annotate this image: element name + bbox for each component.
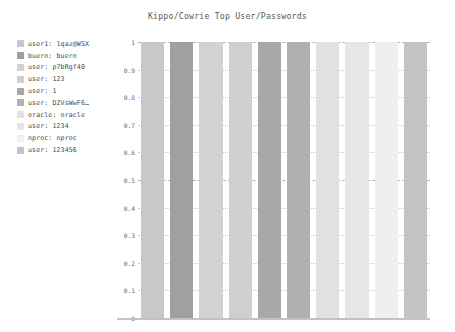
legend-item[interactable]: user: 123 <box>17 73 117 85</box>
legend-item-label: buero: buero <box>28 52 77 60</box>
legend-swatch-icon <box>17 135 24 142</box>
y-axis-tick-labels: 10.90.80.70.60.50.40.30.20.10 <box>110 42 135 318</box>
legend-item-label: user: 1 <box>28 87 57 95</box>
bar[interactable] <box>199 42 222 318</box>
y-axis-tick-label: 0.1 <box>124 287 135 294</box>
legend-item-label: user: 1234 <box>28 122 69 130</box>
legend-swatch-icon <box>17 123 24 130</box>
legend-item-label: user: 123 <box>28 75 65 83</box>
legend-item-label: nproc: nproc <box>28 134 77 142</box>
chart-legend: user1: 1qaz@WSXbuero: buerouser: p7bRgf4… <box>17 38 117 156</box>
bar[interactable] <box>316 42 339 318</box>
legend-item[interactable]: user: 123456 <box>17 144 117 156</box>
legend-item-label: user1: 1qaz@WSX <box>28 40 89 48</box>
y-axis-tick-label: 1 <box>131 39 135 46</box>
legend-item[interactable]: nproc: nproc <box>17 132 117 144</box>
legend-item[interactable]: user1: 1qaz@WSX <box>17 38 117 50</box>
legend-item[interactable]: user: DZVsWwF6… <box>17 97 117 109</box>
legend-swatch-icon <box>17 88 24 95</box>
legend-swatch-icon <box>17 40 24 47</box>
y-axis-tick-label: 0.2 <box>124 259 135 266</box>
legend-swatch-icon <box>17 52 24 59</box>
legend-item[interactable]: user: 1234 <box>17 121 117 133</box>
bar[interactable] <box>229 42 252 318</box>
chart-figure: Kippo/Cowrie Top User/Passwords user1: 1… <box>0 0 455 332</box>
y-axis-tick-label: 0.5 <box>124 177 135 184</box>
legend-item-label: user: DZVsWwF6… <box>28 99 89 107</box>
legend-item[interactable]: oracle: oracle <box>17 109 117 121</box>
legend-item-label: user: 123456 <box>28 146 77 154</box>
bar[interactable] <box>258 42 281 318</box>
legend-item[interactable]: buero: buero <box>17 50 117 62</box>
legend-swatch-icon <box>17 99 24 106</box>
bar-series <box>138 42 430 318</box>
legend-item-label: user: p7bRgf40 <box>28 63 85 71</box>
legend-item[interactable]: user: p7bRgf40 <box>17 62 117 74</box>
x-axis-baseline <box>117 318 430 320</box>
y-axis-tick-label: 0.9 <box>124 66 135 73</box>
y-axis-tick-label: 0.6 <box>124 149 135 156</box>
legend-swatch-icon <box>17 111 24 118</box>
bar[interactable] <box>170 42 193 318</box>
y-axis-tick-label: 0.3 <box>124 232 135 239</box>
plot-area <box>138 42 430 318</box>
legend-item[interactable]: user: 1 <box>17 85 117 97</box>
legend-item-label: oracle: oracle <box>28 111 85 119</box>
y-axis-tick-label: 0.4 <box>124 204 135 211</box>
bar[interactable] <box>375 42 398 318</box>
bar[interactable] <box>404 42 427 318</box>
legend-swatch-icon <box>17 147 24 154</box>
bar[interactable] <box>345 42 368 318</box>
bar[interactable] <box>287 42 310 318</box>
legend-swatch-icon <box>17 76 24 83</box>
chart-title: Kippo/Cowrie Top User/Passwords <box>0 11 455 21</box>
y-axis-tick-label: 0.7 <box>124 121 135 128</box>
y-axis-tick-label: 0.8 <box>124 94 135 101</box>
legend-swatch-icon <box>17 64 24 71</box>
bar[interactable] <box>141 42 164 318</box>
